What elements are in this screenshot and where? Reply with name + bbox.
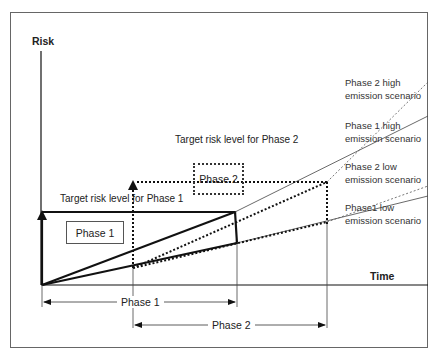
arrow-up-icon	[128, 180, 138, 190]
phase2-span-label: Phase 2	[208, 319, 255, 331]
target-phase1-label: Target risk level for Phase 1	[60, 193, 183, 205]
phase2-box: Phase 2	[193, 163, 244, 195]
scenario-label-phase2-high: Phase 2 high emission scenario	[345, 76, 421, 102]
scenario-label-phase2-low: Phase 2 low emission scenario	[345, 160, 421, 186]
x-axis-label: Time	[370, 270, 394, 282]
scenario-label-phase1-low: Phase1 low emission scenario	[345, 201, 421, 227]
y-axis-label: Risk	[32, 35, 54, 47]
scenario-label-phase1-high: Phase 1 high emission scenario	[345, 119, 421, 145]
phase1-end-line	[235, 211, 237, 244]
phase1-box: Phase 1	[66, 221, 124, 244]
target-phase2-label: Target risk level for Phase 2	[175, 134, 298, 146]
phase1-span-label: Phase 1	[117, 296, 164, 308]
